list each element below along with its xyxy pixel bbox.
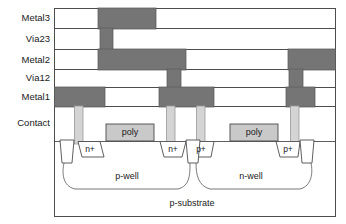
via23-plug [100, 28, 113, 50]
metal1-bar-right [286, 87, 315, 107]
via12-plug-right [289, 69, 303, 88]
p-substrate-label: p-substrate [169, 198, 214, 208]
diff-p-plus-mid-label: p+ [196, 144, 206, 154]
layer-label-metal1: Metal1 [21, 91, 50, 102]
layer-label-metal3: Metal3 [21, 12, 50, 23]
diff-p-plus-right-label: p+ [283, 144, 293, 154]
p-well-label: p-well [115, 171, 139, 181]
contact-4 [291, 106, 300, 144]
contact-3 [197, 106, 206, 144]
layer-label-via12: Via12 [26, 72, 50, 83]
metal1-bar-mid [159, 87, 214, 107]
cross-section-svg: Metal3 Via23 Metal2 Via12 Metal1 Contact… [0, 0, 346, 224]
cmos-cross-section-figure: Metal3 Via23 Metal2 Via12 Metal1 Contact… [0, 0, 346, 224]
poly-pmos-label: poly [246, 127, 263, 137]
diff-n-plus-left-label: n+ [85, 144, 95, 154]
layer-label-group: Metal3 Via23 Metal2 Via12 Metal1 Contact [17, 12, 50, 128]
metal2-bar-right [288, 49, 336, 70]
metal3-bar [98, 8, 156, 29]
via12-plug-mid [167, 69, 181, 88]
contact-1 [75, 106, 84, 144]
sti-left-edge [60, 140, 74, 163]
layer-label-via23: Via23 [26, 33, 50, 44]
sti-right-edge [300, 140, 314, 163]
n-well-label: n-well [239, 171, 263, 181]
metal1-bar-left [55, 87, 106, 107]
layer-label-contact: Contact [17, 117, 50, 128]
contact-2 [167, 106, 176, 144]
poly-nmos-label: poly [122, 127, 139, 137]
metal2-bar-left [98, 49, 186, 70]
diff-n-plus-mid-label: n+ [168, 144, 178, 154]
layer-label-metal2: Metal2 [21, 54, 50, 65]
